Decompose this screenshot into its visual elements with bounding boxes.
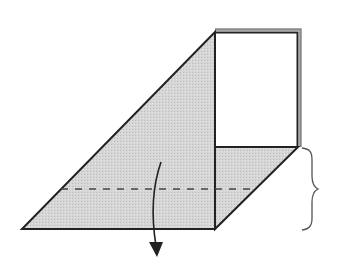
origami-diagram [0, 0, 341, 267]
white-panel [215, 30, 301, 148]
brace-icon [302, 148, 318, 230]
triangle-flap [22, 32, 215, 229]
lower-flap [215, 147, 298, 229]
diagram-canvas [0, 0, 341, 267]
